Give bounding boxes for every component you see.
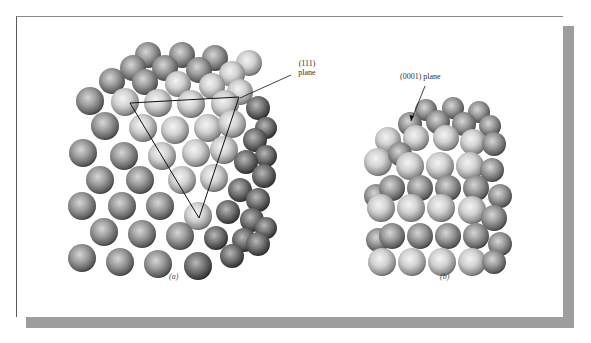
atom-sphere	[210, 136, 238, 164]
atom-sphere	[433, 125, 459, 151]
atom-sphere	[220, 244, 244, 268]
atom-sphere	[76, 87, 104, 115]
atom-sphere	[108, 192, 136, 220]
atom-sphere	[407, 223, 433, 249]
atom-sphere	[184, 252, 212, 280]
label-111-plane: (111) plane	[296, 59, 318, 77]
fcc-cube-panel-a	[68, 42, 277, 280]
atom-sphere	[427, 194, 455, 222]
atom-sphere	[144, 89, 172, 117]
atom-sphere	[482, 250, 506, 274]
label-plane: plane	[296, 68, 318, 77]
atom-sphere	[398, 248, 426, 276]
atom-sphere	[368, 248, 396, 276]
crystal-figure	[0, 0, 591, 343]
atom-sphere	[126, 166, 154, 194]
atom-sphere	[435, 223, 461, 249]
atom-sphere	[463, 223, 489, 249]
atom-sphere	[482, 132, 506, 156]
atom-sphere	[255, 145, 277, 167]
atom-sphere	[364, 148, 392, 176]
caption-b: (b)	[440, 272, 449, 281]
atom-sphere	[397, 194, 425, 222]
atom-sphere	[144, 250, 172, 278]
atom-sphere	[367, 194, 395, 222]
atom-sphere	[69, 139, 97, 167]
atom-sphere	[200, 164, 228, 192]
atom-sphere	[252, 164, 276, 188]
atom-sphere	[218, 110, 246, 138]
atom-sphere	[146, 192, 174, 220]
atom-sphere	[177, 90, 205, 118]
atom-sphere	[106, 248, 134, 276]
atom-sphere	[216, 200, 240, 224]
atom-sphere	[246, 96, 270, 120]
hcp-stack-panel-b	[364, 97, 512, 276]
atom-sphere	[86, 166, 114, 194]
atom-sphere	[488, 184, 512, 208]
atom-sphere	[204, 226, 228, 250]
atom-sphere	[166, 222, 194, 250]
label-0001-plane: (0001) plane	[400, 72, 441, 81]
atom-sphere	[458, 248, 486, 276]
caption-a: (a)	[169, 272, 178, 281]
atom-sphere	[68, 192, 96, 220]
atom-sphere	[460, 129, 486, 155]
atom-sphere	[91, 112, 119, 140]
atom-sphere	[128, 220, 156, 248]
atom-sphere	[379, 223, 405, 249]
atom-sphere	[246, 232, 270, 256]
label-111: (111)	[296, 59, 318, 68]
atom-sphere	[68, 244, 96, 272]
atom-sphere	[110, 142, 138, 170]
atom-sphere	[90, 218, 118, 246]
atom-sphere	[161, 116, 189, 144]
atom-sphere	[129, 114, 157, 142]
atom-sphere	[182, 139, 210, 167]
